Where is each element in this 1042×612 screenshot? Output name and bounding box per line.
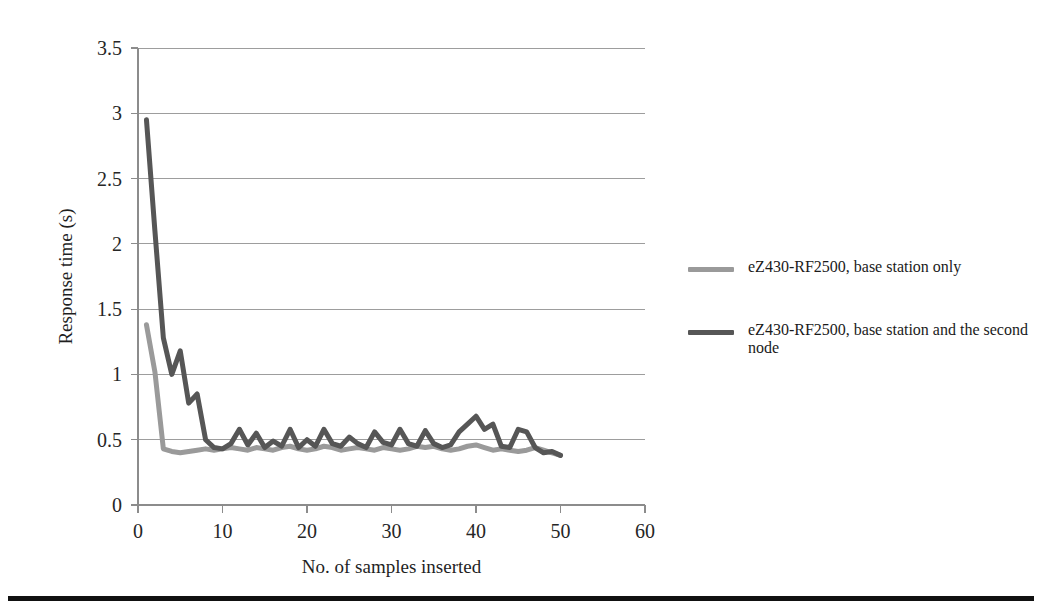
x-axis-title: No. of samples inserted xyxy=(302,556,482,577)
x-axis-tick-label: 40 xyxy=(466,520,486,542)
x-axis-tick-label: 20 xyxy=(297,520,317,542)
y-axis-tick-label: 0 xyxy=(112,494,122,516)
x-axis-tick-label: 30 xyxy=(382,520,402,542)
y-axis-tick-label: 2.5 xyxy=(97,168,122,190)
x-axis-tick-label: 50 xyxy=(551,520,571,542)
y-axis-tick-label: 0.5 xyxy=(97,429,122,451)
response-time-line-chart: 00.511.522.533.50102030405060No. of samp… xyxy=(0,0,1042,612)
legend-item-base-station-only: eZ430-RF2500, base station only xyxy=(688,258,961,276)
y-axis-tick-label: 3.5 xyxy=(97,37,122,59)
legend-swatch-series-2 xyxy=(688,330,734,335)
legend-label-series-1: eZ430-RF2500, base station only xyxy=(748,258,961,276)
y-axis-title: Response time (s) xyxy=(55,208,77,344)
y-axis-tick-label: 1 xyxy=(112,363,122,385)
figure-container: 00.511.522.533.50102030405060No. of samp… xyxy=(0,0,1042,612)
legend-label-series-2: eZ430-RF2500, base station and the secon… xyxy=(748,321,1042,357)
bottom-horizontal-rule xyxy=(8,596,1034,601)
y-axis-tick-label: 2 xyxy=(112,233,122,255)
legend-swatch-series-1 xyxy=(688,267,734,272)
y-axis-tick-label: 3 xyxy=(112,102,122,124)
x-axis-tick-label: 0 xyxy=(133,520,143,542)
legend-item-base-station-and-second-node: eZ430-RF2500, base station and the secon… xyxy=(688,321,1042,357)
x-axis-tick-label: 10 xyxy=(213,520,233,542)
series-line-2 xyxy=(146,120,560,456)
x-axis-tick-label: 60 xyxy=(635,520,655,542)
y-axis-tick-label: 1.5 xyxy=(97,298,122,320)
